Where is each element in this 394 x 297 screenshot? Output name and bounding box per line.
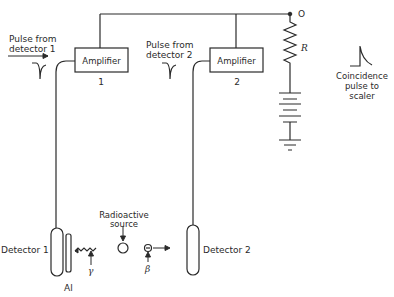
coincidence-pulse-shape xyxy=(350,46,372,66)
detector-1-label: Detector 1 xyxy=(1,245,49,255)
ground-symbol xyxy=(279,140,301,150)
pulse-1-label-line2: detector 1 xyxy=(9,44,56,54)
source-label-line2: source xyxy=(95,219,153,229)
resistor xyxy=(284,14,296,82)
detector-2-tube xyxy=(187,225,199,275)
pulse-1-label-line1: Pulse from xyxy=(9,34,57,44)
output-terminal-label: O xyxy=(298,9,305,19)
amplifier-1-number: 1 xyxy=(95,77,107,87)
aluminum-label: Al xyxy=(64,283,73,293)
detector-2-cable xyxy=(193,61,210,225)
detector-1-cable xyxy=(56,61,75,228)
amplifier-2-label: Amplifier xyxy=(210,56,263,66)
coincidence-label-line3: scaler xyxy=(330,91,394,101)
detector-1-tube xyxy=(51,228,63,276)
pulse-1-shape xyxy=(32,63,46,79)
resistor-label: R xyxy=(301,43,308,53)
pulse-2-shape xyxy=(162,63,176,79)
amplifier-2-number: 2 xyxy=(231,77,243,87)
detector-2-label: Detector 2 xyxy=(203,245,251,255)
amplifier-1-label: Amplifier xyxy=(75,56,128,66)
aluminum-absorber xyxy=(66,234,71,272)
gamma-label: γ xyxy=(88,266,93,276)
coincidence-label-line1: Coincidence xyxy=(330,71,394,81)
pulse-2-label-line2: detector 2 xyxy=(146,50,193,60)
pulse-2-label-line1: Pulse from xyxy=(146,40,194,50)
radioactive-source xyxy=(118,243,128,253)
coincidence-label-line2: pulse to xyxy=(330,81,394,91)
beta-label: β xyxy=(145,264,150,274)
battery xyxy=(279,93,301,122)
coincidence-circuit-diagram xyxy=(0,0,394,297)
output-node xyxy=(288,12,292,16)
